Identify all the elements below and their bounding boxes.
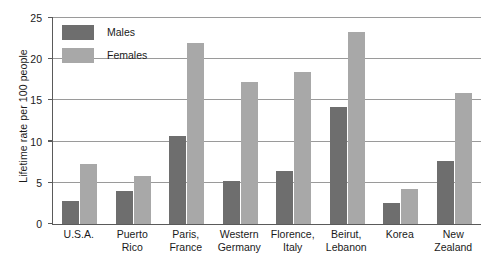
x-axis-tick-label-line: Germany: [213, 241, 267, 254]
x-axis-tick-label-line: U.S.A.: [52, 228, 106, 241]
bar-males-florence-italy: [276, 171, 293, 224]
bar-females-western-germany: [241, 82, 258, 224]
bar-males-western-germany: [223, 181, 240, 224]
x-axis-tick-label: PuertoRico: [106, 228, 160, 253]
y-axis-tick-label: 25: [0, 12, 42, 24]
x-axis-tick-label-line: Paris,: [159, 228, 213, 241]
x-axis-tick-label-line: Rico: [106, 241, 160, 254]
legend-swatch-females: [62, 48, 94, 63]
x-axis-tick-label: Florence,Italy: [266, 228, 320, 253]
bar-females-korea: [401, 189, 418, 224]
x-axis-tick-label: Korea: [373, 228, 427, 241]
bar-males-puerto-rico: [116, 191, 133, 224]
y-axis-tick-label: 20: [0, 53, 42, 65]
y-axis-tick-label: 0: [0, 218, 42, 230]
x-axis-tick-label-line: Lebanon: [320, 241, 374, 254]
bar-chart: Lifetime rate per 100 people 0510152025 …: [0, 0, 486, 266]
x-axis-tick-label-line: Florence,: [266, 228, 320, 241]
legend-item[interactable]: Males: [62, 24, 212, 47]
bar-group: [267, 18, 321, 224]
bar-males-korea: [383, 203, 400, 224]
x-axis-tick-label-line: France: [159, 241, 213, 254]
x-axis-tick-label: U.S.A.: [52, 228, 106, 241]
bar-males-new-zealand: [437, 161, 454, 224]
bar-females-u-s-a: [80, 164, 97, 224]
bar-group: [374, 18, 428, 224]
legend-swatch-males: [62, 25, 94, 40]
x-axis-tick-label-line: New: [427, 228, 481, 241]
bar-males-paris-france: [169, 136, 186, 224]
legend-label: Females: [107, 48, 147, 63]
x-axis-tick-label-line: Korea: [373, 228, 427, 241]
bar-males-beirut-lebanon: [330, 107, 347, 224]
bar-females-new-zealand: [455, 93, 472, 224]
x-axis-tick-label-line: Western: [213, 228, 267, 241]
y-axis-tick-label: 5: [0, 177, 42, 189]
bar-group: [428, 18, 482, 224]
x-axis-tick-label-line: Puerto: [106, 228, 160, 241]
y-axis-tick-label: 15: [0, 94, 42, 106]
chart-legend: MalesFemales: [62, 24, 212, 70]
x-axis-tick-label: NewZealand: [427, 228, 481, 253]
x-axis-tick-label-line: Zealand: [427, 241, 481, 254]
bar-females-puerto-rico: [134, 176, 151, 224]
x-axis-tick-label: Paris,France: [159, 228, 213, 253]
x-axis-tick-label-line: Beirut,: [320, 228, 374, 241]
bar-males-u-s-a: [62, 201, 79, 224]
bar-group: [214, 18, 268, 224]
x-axis-tick-labels: U.S.A.PuertoRicoParis,FranceWesternGerma…: [52, 228, 480, 264]
bar-group: [321, 18, 375, 224]
legend-item[interactable]: Females: [62, 47, 212, 70]
x-axis-tick-label-line: Italy: [266, 241, 320, 254]
x-axis-tick-label: WesternGermany: [213, 228, 267, 253]
x-axis-tick-label: Beirut,Lebanon: [320, 228, 374, 253]
y-axis-tick-label: 10: [0, 136, 42, 148]
legend-label: Males: [107, 25, 135, 40]
bar-females-florence-italy: [294, 72, 311, 224]
bar-females-beirut-lebanon: [348, 32, 365, 224]
